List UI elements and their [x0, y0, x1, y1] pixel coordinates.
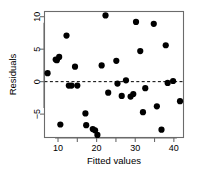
data-point: [56, 54, 62, 60]
data-point: [99, 62, 105, 68]
x-tick-label: 10: [53, 143, 63, 153]
data-point: [158, 127, 164, 133]
data-point: [72, 64, 78, 70]
data-point: [83, 122, 89, 128]
data-point: [170, 78, 176, 84]
data-point: [154, 103, 160, 109]
data-point: [74, 82, 80, 88]
data-point: [63, 32, 69, 38]
x-tick-label: 40: [169, 143, 179, 153]
data-point: [68, 82, 74, 88]
data-point: [137, 48, 143, 54]
x-tick-label: 20: [92, 143, 102, 153]
data-point: [113, 58, 119, 64]
data-point: [94, 132, 100, 138]
data-point: [163, 42, 169, 48]
data-point: [130, 91, 136, 97]
residual-plot: −5051010203040Fitted valuesResiduals: [0, 0, 198, 184]
data-point: [177, 98, 183, 104]
data-point: [105, 90, 111, 96]
y-tick-label: −5: [32, 109, 42, 119]
plot-frame: [45, 12, 184, 138]
data-point: [102, 12, 108, 18]
data-point: [119, 93, 125, 99]
data-point: [82, 110, 88, 116]
y-tick-label: 5: [32, 47, 42, 52]
data-point: [133, 19, 139, 25]
chart-canvas: −5051010203040Fitted valuesResiduals: [0, 0, 198, 184]
data-point: [44, 70, 50, 76]
x-axis-title: Fitted values: [87, 155, 141, 166]
data-point: [140, 109, 146, 115]
data-point: [142, 85, 148, 91]
data-point: [165, 80, 171, 86]
y-tick-label: 0: [32, 79, 42, 84]
data-points-group: [44, 12, 183, 138]
data-point: [57, 121, 63, 127]
y-axis-title: Residuals: [7, 53, 18, 95]
data-point: [151, 21, 157, 27]
data-point: [114, 80, 120, 86]
x-tick-label: 30: [130, 143, 140, 153]
y-tick-label: 10: [32, 12, 42, 22]
data-point: [123, 77, 129, 83]
